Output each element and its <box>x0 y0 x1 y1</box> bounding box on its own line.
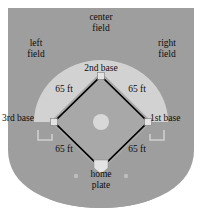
label-distance-third-to-second: 65 ft <box>49 84 79 95</box>
baseball-field-diagram: center field left field right field 2nd … <box>0 0 202 214</box>
label-right-field-line1: right <box>142 38 192 49</box>
label-second-base: 2nd base <box>68 63 134 74</box>
label-home-plate-line1: home <box>72 169 130 180</box>
label-left-field-line1: left <box>12 38 60 49</box>
label-right-field: right field <box>142 38 192 60</box>
label-left-field-line2: field <box>12 49 60 60</box>
label-center-field-line1: center <box>70 12 132 23</box>
second-base-marker <box>98 73 105 80</box>
pitchers-mound-icon <box>93 114 109 130</box>
label-left-field: left field <box>12 38 60 60</box>
label-home-plate: home plate <box>72 169 130 191</box>
label-center-field: center field <box>70 12 132 34</box>
label-first-base: 1st base <box>150 113 202 124</box>
label-distance-home-to-first: 65 ft <box>122 144 152 155</box>
label-home-plate-line2: plate <box>72 180 130 191</box>
label-third-base: 3rd base <box>2 113 52 124</box>
label-right-field-line2: field <box>142 49 192 60</box>
label-distance-home-to-third: 65 ft <box>49 144 79 155</box>
label-center-field-line2: field <box>70 23 132 34</box>
label-distance-second-to-first: 65 ft <box>122 84 152 95</box>
